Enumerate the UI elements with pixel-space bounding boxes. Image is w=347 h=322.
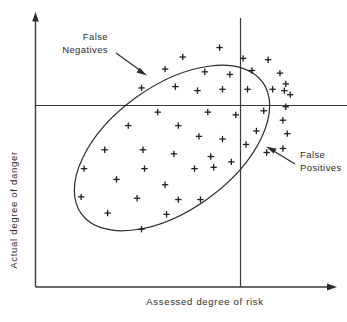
figure-background: [0, 0, 347, 322]
false-negatives-label-line1: False: [83, 31, 108, 42]
x-axis-label: Assessed degree of risk: [146, 296, 263, 307]
figure-canvas: False Negatives False Positives Assessed…: [0, 0, 347, 322]
y-axis-label: Actual degree of danger: [8, 151, 19, 269]
false-negatives-label-line2: Negatives: [62, 44, 108, 55]
scatter-plot-figure: False Negatives False Positives Assessed…: [0, 0, 347, 322]
false-positives-label-line1: False: [300, 149, 325, 160]
false-positives-label-line2: Positives: [300, 162, 342, 173]
